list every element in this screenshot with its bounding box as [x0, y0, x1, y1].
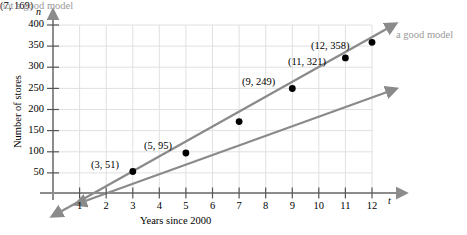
- x-tick-label: 9: [282, 200, 302, 211]
- x-tick-label: 4: [149, 200, 169, 211]
- y-tick-label: 300: [14, 60, 44, 71]
- not-a-good-model-line: [82, 91, 390, 202]
- data-point: [342, 55, 349, 62]
- x-tick-label: 6: [203, 200, 223, 211]
- data-point: [183, 150, 190, 157]
- a-good-model-line: [58, 27, 390, 213]
- data-point: [369, 39, 376, 46]
- annotation-a-good-model: a good model: [396, 29, 453, 40]
- y-tick-label: 350: [14, 39, 44, 50]
- x-tick-label: 11: [335, 200, 355, 211]
- data-points: [129, 39, 375, 175]
- data-point-label: (3, 51): [91, 159, 119, 170]
- x-tick-label: 5: [176, 200, 196, 211]
- y-axis: [47, 16, 59, 200]
- x-tick-label: 8: [256, 200, 276, 211]
- data-point-label: (12, 358): [311, 40, 350, 51]
- chart-canvas: n t 400 350 300 250 200 150 100 50 1 2 3…: [0, 0, 467, 235]
- x-tick-label: 12: [362, 200, 382, 211]
- x-tick-label: 7: [229, 200, 249, 211]
- annotation-not-a-good-model: not a good model: [0, 0, 73, 11]
- data-point-label: (11, 321): [288, 56, 326, 67]
- x-tick-label: 1: [70, 200, 90, 211]
- x-tick-label: 3: [123, 200, 143, 211]
- y-axis-title: Number of stores: [12, 75, 23, 148]
- x-axis-title: Years since 2000: [140, 215, 211, 226]
- data-point: [236, 118, 243, 125]
- data-point: [289, 85, 296, 92]
- x-tick-label: 10: [309, 200, 329, 211]
- y-tick-label: 50: [14, 166, 44, 177]
- data-point-label: (9, 249): [242, 76, 275, 87]
- y-tick-label: 400: [14, 18, 44, 29]
- x-tick-label: 2: [96, 200, 116, 211]
- data-point: [129, 168, 136, 175]
- data-point-label: (5, 95): [144, 140, 172, 151]
- x-axis-variable: t: [388, 195, 391, 206]
